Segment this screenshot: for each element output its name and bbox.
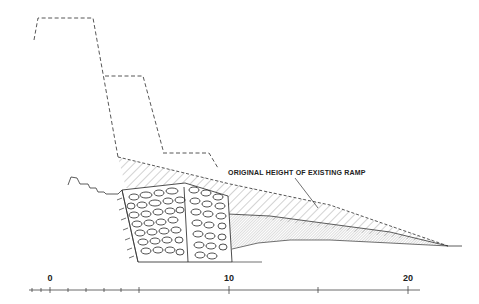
ramp-section-diagram: ORIGINAL HEIGHT OF EXISTING RAMP 0 10 20 xyxy=(0,0,479,304)
scale-label-0: 0 xyxy=(47,273,52,283)
annotation-label: ORIGINAL HEIGHT OF EXISTING RAMP xyxy=(228,169,366,176)
stepped-rock-profile xyxy=(68,177,122,194)
scale-label-20: 20 xyxy=(403,273,413,283)
section-drawing xyxy=(0,0,479,304)
scale-bar xyxy=(29,286,420,294)
original-outline-dashed xyxy=(34,18,218,168)
scale-label-10: 10 xyxy=(224,273,234,283)
rubble-masonry xyxy=(122,183,232,262)
